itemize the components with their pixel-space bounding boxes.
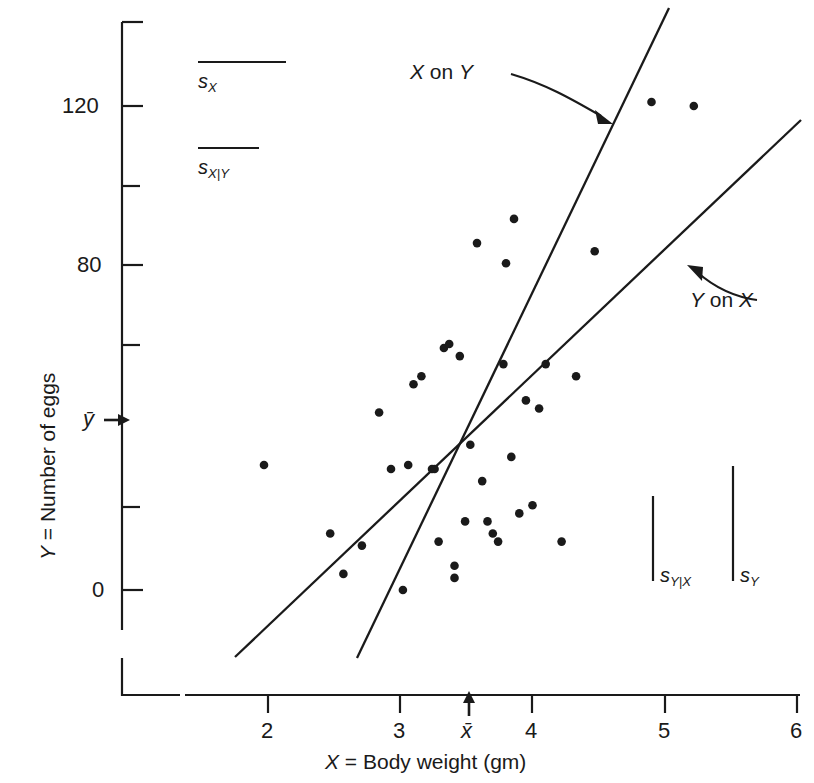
regression-lines — [235, 8, 801, 658]
y-bar-arrow-icon — [104, 414, 130, 426]
data-point — [387, 465, 396, 474]
y-axis-title: Y = Number of eggs — [36, 373, 60, 560]
y-on-x-label: Y on X — [690, 288, 753, 312]
data-point — [483, 517, 492, 526]
data-point — [434, 537, 443, 546]
y-mean-label: ȳ — [83, 406, 94, 432]
x-axis-title-var: X — [325, 750, 339, 773]
data-point — [326, 529, 335, 538]
data-point — [404, 461, 413, 470]
data-point — [478, 477, 487, 486]
x-tick-label-4: 4 — [525, 718, 537, 744]
data-point — [450, 562, 459, 571]
data-point — [409, 380, 418, 389]
data-points-layer — [260, 98, 698, 595]
data-point — [494, 537, 503, 546]
data-point — [528, 501, 537, 510]
data-point — [473, 239, 482, 248]
data-point — [522, 396, 531, 405]
data-point — [461, 517, 470, 526]
x-axis-group — [185, 691, 800, 716]
data-point — [590, 247, 599, 256]
x-mean-label: x̄ — [461, 718, 472, 744]
sxy-sub: X|Y — [208, 166, 229, 181]
data-point — [260, 461, 269, 470]
x-on-y-label-text: X — [410, 60, 424, 83]
data-point — [375, 408, 384, 417]
legend-label-syx: sY|X — [660, 564, 691, 589]
data-point — [502, 259, 511, 268]
syx-base: s — [660, 564, 670, 586]
data-point — [417, 372, 426, 381]
sx-base: s — [198, 70, 208, 92]
y-tick-label-0: 0 — [92, 577, 104, 603]
data-point — [450, 574, 459, 583]
y-axis-title-var: Y — [36, 546, 59, 560]
legend-label-sxy: sX|Y — [198, 156, 229, 181]
data-point — [541, 360, 550, 369]
data-point — [647, 98, 656, 107]
data-point — [515, 509, 524, 518]
data-point — [339, 570, 348, 579]
y-tick-label-120: 120 — [62, 93, 99, 119]
sx-sub: X — [208, 80, 217, 95]
data-point — [690, 102, 699, 111]
line-x-on-y — [357, 8, 669, 658]
plot-canvas — [0, 0, 814, 783]
y-axis-group — [104, 22, 180, 695]
syx-sub: Y|X — [670, 574, 691, 589]
y-on-x-label-text: Y — [690, 288, 704, 311]
x-on-y-label: X on Y — [410, 60, 473, 84]
data-point — [430, 465, 439, 474]
data-point — [499, 360, 508, 369]
sy-base: s — [740, 564, 750, 586]
data-point — [445, 340, 454, 349]
x-on-y-arrow-icon — [511, 74, 601, 116]
line-y-on-x — [235, 120, 801, 657]
data-point — [399, 586, 408, 595]
y-axis-title-rest: = Number of eggs — [36, 373, 59, 546]
x-tick-label-2: 2 — [261, 718, 273, 744]
sy-sub: Y — [750, 574, 759, 589]
x-axis-title-rest: = Body weight (gm) — [339, 750, 526, 773]
x-on-y-label-text2: Y — [459, 60, 473, 83]
y-on-x-label-text2: X — [739, 288, 753, 311]
data-point — [358, 541, 367, 550]
x-tick-label-3: 3 — [393, 718, 405, 744]
data-point — [456, 352, 465, 361]
data-point — [510, 215, 519, 224]
scatter-plot-figure: 120 80 0 ȳ 2 3 x̄ 4 5 6 Y = Number of eg… — [0, 0, 814, 783]
annotation-arrows — [511, 74, 757, 300]
data-point — [466, 441, 475, 450]
data-point — [489, 529, 498, 538]
x-tick-label-6: 6 — [790, 718, 802, 744]
sxy-base: s — [198, 156, 208, 178]
legend-label-sy: sY — [740, 564, 759, 589]
data-point — [557, 537, 566, 546]
legend-label-sx: sX — [198, 70, 217, 95]
x-axis-title: X = Body weight (gm) — [325, 750, 526, 774]
data-point — [572, 372, 581, 381]
y-tick-label-80: 80 — [77, 252, 101, 278]
data-point — [535, 404, 544, 413]
x-tick-label-5: 5 — [658, 718, 670, 744]
axis-break-corner — [122, 658, 180, 695]
data-point — [507, 453, 516, 462]
